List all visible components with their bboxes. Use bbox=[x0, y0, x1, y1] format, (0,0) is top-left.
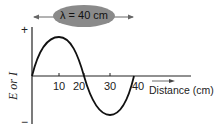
x-tick-30: 30 bbox=[104, 81, 116, 92]
wavelength-label: λ = 40 cm bbox=[55, 6, 113, 24]
x-tick-40: 40 bbox=[132, 81, 144, 92]
x-tick-20: 20 bbox=[73, 81, 85, 92]
y-minus-sign: − bbox=[21, 116, 28, 128]
distance-arrow bbox=[152, 79, 175, 83]
y-plus-sign: + bbox=[21, 24, 28, 36]
y-axis-label: E or I bbox=[6, 72, 21, 100]
x-tick-10: 10 bbox=[53, 81, 65, 92]
x-axis-label: Distance (cm) bbox=[149, 85, 214, 96]
